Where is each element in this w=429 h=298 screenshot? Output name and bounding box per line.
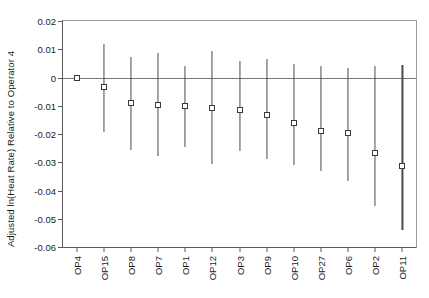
x-axis-tick [103, 247, 104, 252]
y-axis-tick-label: 0.01 [38, 44, 57, 55]
y-axis-tick [58, 21, 63, 22]
y-axis-tick [58, 78, 63, 79]
x-axis-tick [158, 247, 159, 252]
x-axis-tick [402, 247, 403, 252]
y-axis-tick [58, 191, 63, 192]
error-bar-op6 [348, 68, 349, 181]
plot-area: 0.020.010-0.01-0.02-0.03-0.04-0.05-0.06O… [62, 20, 417, 248]
x-axis-tick-label-op4: OP4 [71, 256, 82, 275]
data-point-op10[interactable] [291, 120, 297, 126]
data-point-op8[interactable] [128, 100, 134, 106]
y-axis-tick [58, 219, 63, 220]
y-axis-tick [58, 106, 63, 107]
x-axis-tick-label-op15: OP15 [98, 256, 109, 280]
x-axis-tick-label-op12: OP12 [207, 256, 218, 280]
x-axis-tick-label-op27: OP27 [315, 256, 326, 280]
x-axis-tick [375, 247, 376, 252]
data-point-op11[interactable] [399, 163, 405, 169]
error-bar-op3 [239, 61, 240, 151]
plot-inner: 0.020.010-0.01-0.02-0.03-0.04-0.05-0.06O… [63, 21, 416, 247]
error-bar-op9 [266, 59, 267, 159]
data-point-op12[interactable] [209, 105, 215, 111]
y-axis-tick-label: 0 [51, 72, 56, 83]
y-axis-tick [58, 134, 63, 135]
y-axis-title: Adjusted ln(Heat Rate) Relative to Opera… [0, 0, 20, 298]
error-bar-op2 [375, 66, 376, 207]
x-axis-tick [348, 247, 349, 252]
y-axis-tick [58, 162, 63, 163]
data-point-op2[interactable] [372, 150, 378, 156]
y-axis-tick-label: 0.02 [38, 16, 57, 27]
data-point-op4[interactable] [74, 75, 80, 81]
data-point-op27[interactable] [318, 128, 324, 134]
data-point-op15[interactable] [101, 84, 107, 90]
y-axis-tick-label: -0.06 [34, 242, 56, 253]
y-axis-tick-label: -0.02 [34, 129, 56, 140]
y-axis-tick-label: -0.03 [34, 157, 56, 168]
y-axis-tick-label: -0.05 [34, 213, 56, 224]
x-axis-tick [185, 247, 186, 252]
data-point-op6[interactable] [345, 130, 351, 136]
x-axis-tick [320, 247, 321, 252]
x-axis-tick-label-op7: OP7 [153, 256, 164, 275]
error-bar-op27 [320, 66, 321, 171]
x-axis-tick [239, 247, 240, 252]
x-axis-tick [212, 247, 213, 252]
x-axis-tick-label-op2: OP2 [370, 256, 381, 275]
x-axis-tick-label-op8: OP8 [125, 256, 136, 275]
error-bar-op11 [402, 65, 403, 231]
data-point-op3[interactable] [237, 107, 243, 113]
x-axis-tick-label-op11: OP11 [397, 256, 408, 280]
chart-figure: Adjusted ln(Heat Rate) Relative to Opera… [0, 0, 429, 298]
x-axis-tick [293, 247, 294, 252]
x-axis-tick-label-op9: OP9 [261, 256, 272, 275]
y-axis-tick-label: -0.04 [34, 185, 56, 196]
x-axis-tick [266, 247, 267, 252]
x-axis-tick-label-op3: OP3 [234, 256, 245, 275]
x-axis-tick-label-op10: OP10 [288, 256, 299, 280]
error-bar-op10 [293, 64, 294, 165]
data-point-op1[interactable] [182, 103, 188, 109]
x-axis-tick [76, 247, 77, 252]
data-point-op7[interactable] [155, 102, 161, 108]
y-axis-tick [58, 49, 63, 50]
x-axis-tick-label-op6: OP6 [343, 256, 354, 275]
data-point-op9[interactable] [264, 112, 270, 118]
y-axis-tick-label: -0.01 [34, 100, 56, 111]
x-axis-tick-label-op1: OP1 [180, 256, 191, 275]
y-axis-tick [58, 247, 63, 248]
x-axis-tick [130, 247, 131, 252]
